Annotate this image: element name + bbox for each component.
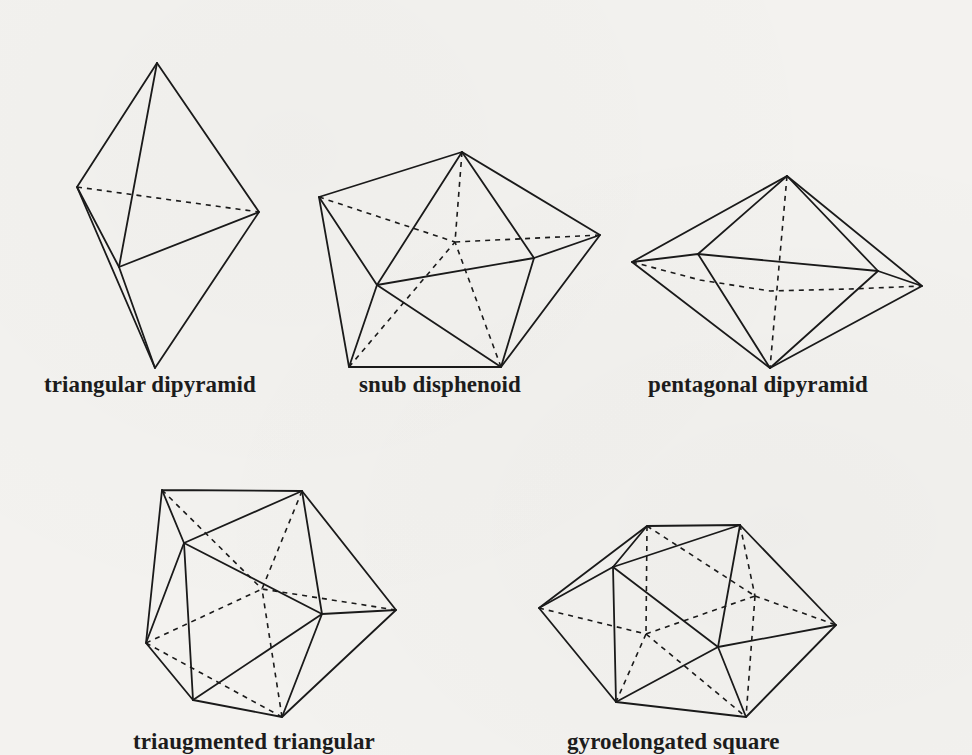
triaugmented-triangular-prism-drawing xyxy=(146,490,396,717)
caption-triangular-dipyramid: triangular dipyramid xyxy=(44,373,256,396)
caption-gyroelongated-square-dipyramid: gyroelongated square xyxy=(567,730,780,753)
gyroelongated-square-dipyramid-drawing xyxy=(539,525,836,717)
pentagonal-dipyramid-drawing xyxy=(632,176,922,368)
triangular-dipyramid-drawing xyxy=(77,63,259,368)
caption-snub-disphenoid: snub disphenoid xyxy=(359,373,521,396)
snub-disphenoid-drawing xyxy=(319,152,600,367)
caption-triaugmented-triangular-prism: triaugmented triangular xyxy=(133,730,375,753)
caption-pentagonal-dipyramid: pentagonal dipyramid xyxy=(648,373,868,396)
diagram-page: triangular dipyramid snub disphenoid pen… xyxy=(0,0,972,755)
